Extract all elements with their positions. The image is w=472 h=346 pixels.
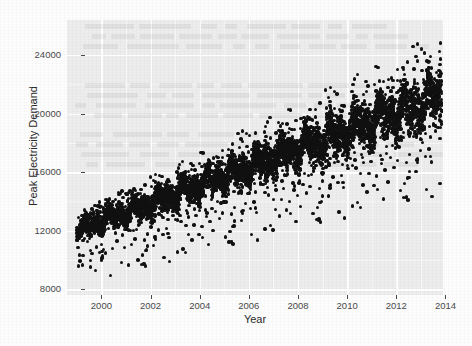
scatter-point xyxy=(391,79,394,82)
scatter-point xyxy=(188,204,191,207)
scatter-point xyxy=(373,135,376,138)
scatter-point xyxy=(438,137,441,140)
scatter-point xyxy=(428,125,431,128)
scatter-point xyxy=(440,122,443,125)
scatter-point xyxy=(161,216,164,219)
scatter-point xyxy=(365,90,368,93)
scatter-point xyxy=(336,160,339,163)
scatter-point xyxy=(385,145,388,148)
scatter-point xyxy=(351,204,354,207)
scatter-point xyxy=(314,108,317,111)
scatter-point xyxy=(77,264,80,267)
scatter-point xyxy=(165,227,168,230)
scatter-point xyxy=(298,168,301,171)
scatter-point xyxy=(321,179,324,182)
scatter-point xyxy=(424,132,427,135)
scatter-point xyxy=(399,127,402,130)
scatter-point xyxy=(289,212,292,215)
scatter-point xyxy=(201,151,204,154)
scatter-point xyxy=(187,233,190,236)
scatter-point xyxy=(408,153,411,156)
scatter-point xyxy=(362,161,365,164)
scatter-point xyxy=(420,69,423,72)
scatter-point xyxy=(184,251,187,254)
scatter-point xyxy=(149,175,152,178)
scatter-point xyxy=(419,149,422,152)
scatter-point xyxy=(356,201,359,204)
scatter-point xyxy=(359,206,362,209)
scatter-point xyxy=(440,103,443,106)
scatter-point xyxy=(402,131,405,134)
scatter-point xyxy=(405,161,408,164)
scatter-point xyxy=(152,219,155,222)
scatter-point xyxy=(221,156,224,159)
scatter-point xyxy=(363,103,366,106)
scatter-point xyxy=(114,231,117,234)
scatter-point xyxy=(216,156,219,159)
scatter-point xyxy=(354,95,357,98)
scatter-point xyxy=(240,219,243,222)
scatter-point xyxy=(364,80,367,83)
scatter-point xyxy=(254,206,257,209)
scatter-point xyxy=(282,187,285,190)
scatter-point xyxy=(373,146,376,149)
scatter-point xyxy=(350,90,353,93)
scatter-point xyxy=(268,116,271,119)
scatter-point xyxy=(301,183,304,186)
scatter-point xyxy=(328,186,331,189)
scatter-point xyxy=(162,256,165,259)
scatter-point xyxy=(256,238,259,241)
scatter-point xyxy=(230,212,233,215)
scatter-point xyxy=(382,197,385,200)
scatter-point xyxy=(353,136,356,139)
scatter-point xyxy=(361,156,364,159)
scatter-point xyxy=(266,186,269,189)
scatter-point xyxy=(263,130,266,133)
scatter-point xyxy=(215,189,218,192)
scatter-point xyxy=(416,157,419,160)
scatter-point xyxy=(318,187,321,190)
x-tick-mark-2002 xyxy=(151,295,152,299)
scatter-point xyxy=(349,157,352,160)
scatter-point xyxy=(274,184,277,187)
scatter-point xyxy=(248,191,251,194)
scatter-point xyxy=(356,73,359,76)
scatter-point xyxy=(428,60,431,63)
scatter-point xyxy=(274,188,277,191)
scatter-point xyxy=(255,211,258,214)
scatter-point xyxy=(139,221,142,224)
scatter-point xyxy=(318,126,321,129)
scatter-point xyxy=(340,109,343,112)
scatter-point xyxy=(308,185,311,188)
scatter-point xyxy=(198,205,201,208)
scatter-point xyxy=(314,164,317,167)
scatter-point xyxy=(311,118,314,121)
scatter-point xyxy=(372,184,375,187)
scatter-point xyxy=(409,131,412,134)
scatter-point xyxy=(179,220,182,223)
scatter-point xyxy=(89,265,92,268)
scatter-point xyxy=(157,228,160,231)
scatter-point xyxy=(86,240,89,243)
scatter-point xyxy=(111,247,114,250)
scatter-point xyxy=(98,200,101,203)
scatter-point xyxy=(344,122,347,125)
scatter-point xyxy=(438,50,441,53)
scatter-point xyxy=(300,162,303,165)
scatter-point xyxy=(252,200,255,203)
scatter-point xyxy=(184,224,187,227)
scatter-point xyxy=(347,148,350,151)
scatter-point xyxy=(376,188,379,191)
scatter-point xyxy=(241,212,244,215)
scatter-point xyxy=(181,247,184,250)
scatter-point xyxy=(160,175,163,178)
scatter-point xyxy=(81,254,84,257)
scatter-point xyxy=(396,68,399,71)
scatter-point xyxy=(205,215,208,218)
scatter-point xyxy=(133,237,136,240)
scatter-point xyxy=(361,183,364,186)
scatter-point xyxy=(327,96,330,99)
scatter-point xyxy=(308,108,311,111)
scatter-point xyxy=(198,209,201,212)
scatter-point xyxy=(321,194,324,197)
